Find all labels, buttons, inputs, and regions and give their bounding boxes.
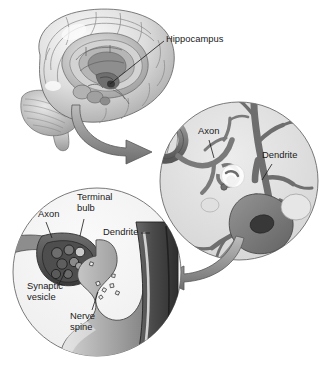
label-axon-neuron: Axon — [198, 125, 219, 136]
label-terminal-bulb-line2: bulb — [77, 202, 95, 213]
adjacent-cell — [281, 194, 311, 220]
label-nerve-spine-line1: Nerve — [70, 310, 95, 321]
label-axon-synapse: Axon — [38, 208, 59, 219]
diagram-canvas: Hippocampus — [0, 0, 319, 371]
synapse-highlight-circle — [222, 165, 245, 188]
label-nerve-spine-line2: spine — [70, 321, 92, 332]
anatomy-figure: Hippocampus — [0, 0, 319, 371]
dendrite-through-highlight — [255, 160, 258, 180]
label-dendrite-synapse: Dendrite — [103, 226, 138, 237]
background-blob — [201, 198, 219, 212]
label-hippocampus: Hippocampus — [166, 33, 224, 44]
label-synaptic-vesicle-line1: Synaptic — [27, 280, 63, 291]
label-terminal-bulb-line1: Terminal — [77, 191, 112, 202]
label-dendrite-neuron: Dendrite — [262, 149, 297, 160]
label-synaptic-vesicle-line2: vesicle — [27, 291, 56, 302]
cortex-highlight-2 — [45, 81, 61, 91]
